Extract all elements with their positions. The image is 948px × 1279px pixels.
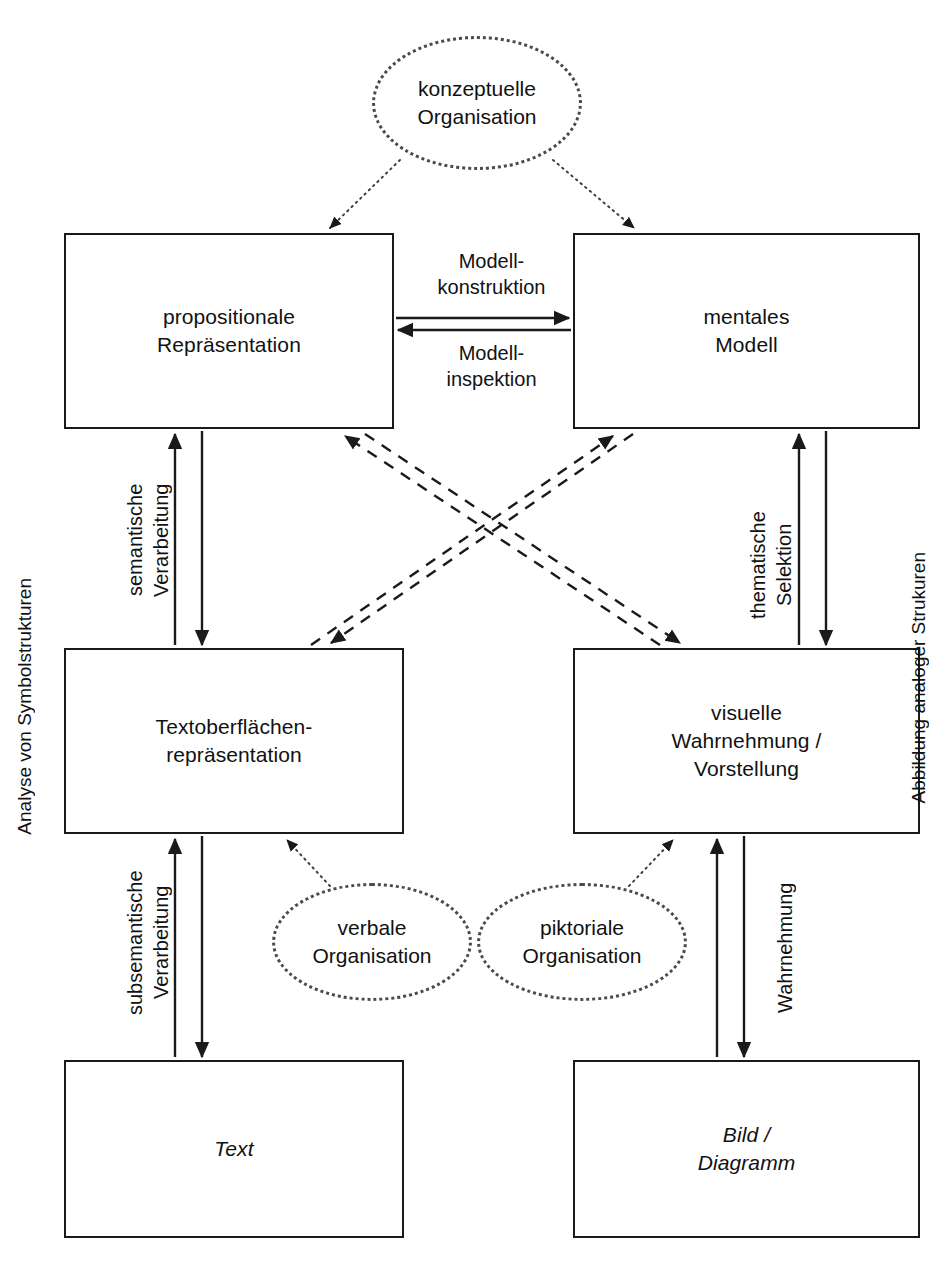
edge-textoberflaechen-to-mentales xyxy=(311,436,613,645)
node-text-label: Text xyxy=(214,1135,253,1163)
edge-konzeptuelle-to-mentales xyxy=(553,160,634,228)
edge-label-modellinspektion: Modell- inspektion xyxy=(424,340,559,392)
edge-label-subsemantische-verarbeitung: subsemantische Verarbeitung xyxy=(122,845,174,1040)
edge-propositionale-to-visuelle xyxy=(365,434,680,643)
node-konzeptuelle-organisation-label: konzeptuelle Organisation xyxy=(417,75,536,131)
node-konzeptuelle-organisation[interactable]: konzeptuelle Organisation xyxy=(372,36,582,170)
edge-visuelle-to-propositionale xyxy=(345,436,660,645)
edge-piktoriale-to-visuelle xyxy=(629,840,673,886)
edge-label-thematische-selektion: thematische Selektion xyxy=(745,490,797,640)
node-piktoriale-organisation-label: piktoriale Organisation xyxy=(522,914,641,970)
node-textoberflaechenrepraesentation[interactable]: Textoberflächen- repräsentation xyxy=(64,648,404,834)
edge-mentales-to-textoberflaechen xyxy=(331,434,633,643)
node-propositionale-repraesentation[interactable]: propositionale Repräsentation xyxy=(64,233,394,429)
side-label-abbildung-analoger-strukuren: Abbildung analoger Strukuren xyxy=(908,552,930,803)
node-bild-diagramm[interactable]: Bild / Diagramm xyxy=(573,1060,920,1238)
node-bild-diagramm-label: Bild / Diagramm xyxy=(698,1121,796,1177)
node-mentales-modell-label: mentales Modell xyxy=(703,303,789,359)
node-verbale-organisation[interactable]: verbale Organisation xyxy=(272,883,472,1001)
edge-label-wahrnehmung: Wahrnehmung xyxy=(772,865,798,1030)
node-text[interactable]: Text xyxy=(64,1060,404,1238)
diagram-canvas: konzeptuelle Organisation propositionale… xyxy=(0,0,948,1279)
edge-label-modellkonstruktion: Modell- konstruktion xyxy=(424,248,559,300)
node-piktoriale-organisation[interactable]: piktoriale Organisation xyxy=(477,883,687,1001)
edge-konzeptuelle-to-propositionale xyxy=(330,160,400,228)
side-label-analyse-von-symbolstrukturen: Analyse von Symbolstrukturen xyxy=(14,578,36,835)
edge-label-semantische-verarbeitung: semantische Verarbeitung xyxy=(122,447,174,633)
node-verbale-organisation-label: verbale Organisation xyxy=(312,914,431,970)
node-mentales-modell[interactable]: mentales Modell xyxy=(573,233,920,429)
node-textoberflaechenrepraesentation-label: Textoberflächen- repräsentation xyxy=(156,713,313,769)
node-visuelle-wahrnehmung-vorstellung-label: visuelle Wahrnehmung / Vorstellung xyxy=(672,699,822,783)
node-propositionale-repraesentation-label: propositionale Repräsentation xyxy=(157,303,301,359)
node-visuelle-wahrnehmung-vorstellung[interactable]: visuelle Wahrnehmung / Vorstellung xyxy=(573,648,920,834)
edge-verbale-to-textoberflaechen xyxy=(287,840,330,886)
